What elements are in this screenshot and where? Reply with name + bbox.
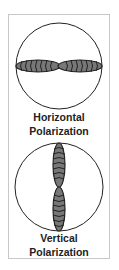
horizontal-polarization-pattern <box>16 23 102 109</box>
horizontal-label-line1: Horizontal <box>8 111 110 124</box>
vertical-lobes <box>53 143 65 231</box>
vertical-polarization-pattern <box>15 143 103 231</box>
horizontal-lobes <box>16 60 102 72</box>
vertical-label-line2: Polarization <box>8 246 110 259</box>
vertical-label-line1: Vertical <box>8 232 110 245</box>
horizontal-label-line2: Polarization <box>8 125 110 138</box>
